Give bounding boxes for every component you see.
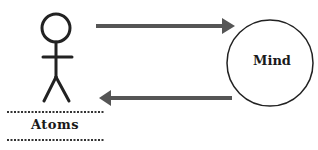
mind-label: Mind xyxy=(232,53,312,68)
arrow-atoms-to-mind xyxy=(96,18,235,34)
arrow-mind-to-atoms xyxy=(99,90,232,106)
stick-figure-icon xyxy=(42,14,72,101)
atoms-label: Atoms xyxy=(0,117,110,132)
